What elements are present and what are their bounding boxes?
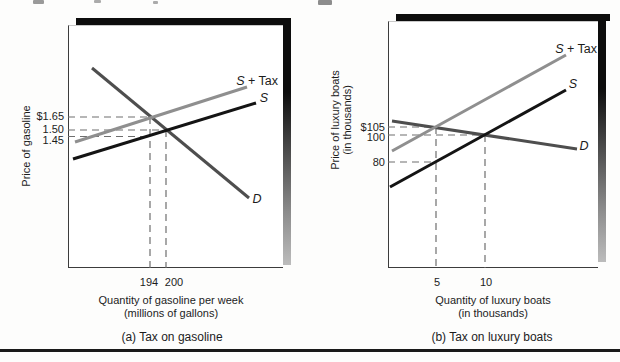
panel-a-price-label-165: $1.65 (24, 110, 64, 122)
panel-b-plot-area (388, 21, 598, 268)
panel-b-drop-shadow-right (598, 14, 606, 262)
panel-a-x-axis-title-line2: (millions of gallons) (71, 307, 271, 319)
panel-a-x-axis-title-line1: Quantity of gasoline per week (71, 294, 271, 306)
panel-b-x-tick-5: 5 (422, 276, 452, 288)
panel-a-supply-tax-curve-label: S + Tax (206, 75, 278, 88)
panel-b-x-tick-10: 10 (471, 276, 501, 288)
bottom-rule (0, 349, 620, 352)
panel-b-y-axis-title-line2: (in thousands) (341, 70, 353, 170)
panel-b-drop-shadow-top (396, 14, 610, 21)
panel-b-x-axis-title-line2: (in thousands) (393, 307, 593, 319)
plus-tax-text: + Tax (245, 74, 278, 88)
panel-a-supply-curve-label: S (256, 92, 272, 105)
panel-a-x-tick-200: 200 (159, 276, 189, 288)
panel-b-caption: (b) Tax on luxury boats (392, 331, 592, 343)
supply-letter: S (555, 42, 563, 56)
panel-a-caption: (a) Tax on gasoline (72, 331, 272, 343)
cropped-text-fragment (94, 0, 101, 3)
panel-a-drop-shadow-right (283, 18, 291, 265)
panel-b-price-label-100: 100 (345, 131, 385, 143)
supply-letter: S (236, 74, 244, 88)
panel-b-y-axis-title: Price of luxury boats (in thousands) (329, 70, 353, 170)
panel-a-price-label-145: 1.45 (24, 134, 64, 146)
panel-b-price-label-80: 80 (345, 156, 385, 168)
cropped-text-fragment (318, 0, 332, 5)
plus-tax-text: + Tax (564, 42, 597, 56)
panel-b-supply-curve-label: S (565, 78, 581, 91)
panel-a-plot-area (68, 25, 283, 268)
panel-a-demand-curve-label: D (249, 193, 265, 206)
panel-a-drop-shadow-top (76, 18, 291, 25)
cropped-text-fragment (153, 1, 158, 4)
panel-b-y-axis-title-line1: Price of luxury boats (329, 70, 341, 170)
panel-b-demand-curve-label: D (576, 140, 592, 153)
panel-b-x-axis-title-line1: Quantity of luxury boats (393, 294, 593, 306)
panel-b-supply-tax-curve-label: S + Tax (525, 43, 597, 56)
cropped-text-fragment (33, 0, 44, 4)
